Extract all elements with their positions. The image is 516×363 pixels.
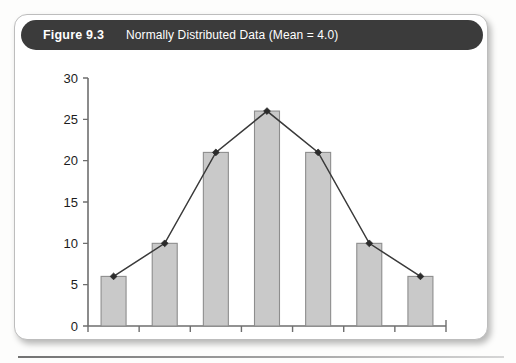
y-tick-label: 20 bbox=[64, 153, 78, 168]
chart-bar bbox=[408, 276, 433, 326]
x-tick-label: 4 bbox=[263, 338, 270, 339]
x-tick-label: 3 bbox=[212, 338, 219, 339]
figure-header-bar: Figure 9.3 Normally Distributed Data (Me… bbox=[21, 20, 483, 50]
y-tick-label: 15 bbox=[64, 195, 78, 210]
y-tick-label: 25 bbox=[64, 112, 78, 127]
y-tick-label: 0 bbox=[71, 319, 78, 334]
chart-bar bbox=[101, 276, 126, 326]
chart-bar bbox=[255, 111, 280, 326]
x-tick-label: 5 bbox=[315, 338, 322, 339]
y-tick-label: 5 bbox=[71, 277, 78, 292]
figure-card: Figure 9.3 Normally Distributed Data (Me… bbox=[14, 14, 488, 340]
chart-bar bbox=[306, 152, 331, 326]
figure-number-label: Figure 9.3 bbox=[43, 28, 104, 42]
page-bottom-rule bbox=[18, 356, 504, 358]
chart-bar bbox=[357, 243, 382, 326]
y-axis: 051015202530 bbox=[64, 71, 88, 334]
chart-plot-area: 051015202530 1234567 bbox=[15, 55, 487, 339]
x-tick-label: 1 bbox=[110, 338, 117, 339]
bar-series bbox=[101, 111, 433, 326]
figure-caption-text: Normally Distributed Data (Mean = 4.0) bbox=[126, 28, 338, 42]
x-tick-label: 2 bbox=[161, 338, 168, 339]
y-tick-label: 10 bbox=[64, 236, 78, 251]
normal-distribution-chart: 051015202530 1234567 bbox=[15, 55, 487, 339]
x-tick-label: 6 bbox=[366, 338, 373, 339]
x-tick-label: 7 bbox=[417, 338, 424, 339]
chart-bar bbox=[152, 243, 177, 326]
chart-bar bbox=[203, 152, 228, 326]
y-tick-label: 30 bbox=[64, 71, 78, 86]
